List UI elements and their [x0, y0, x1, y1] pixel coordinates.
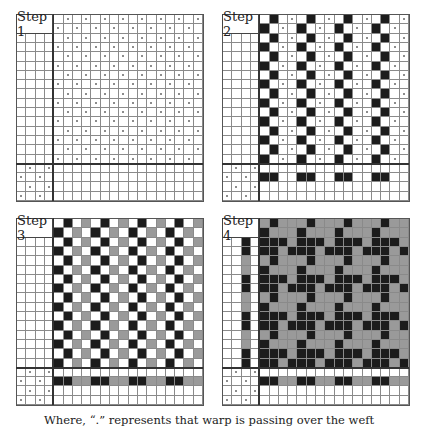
grid-cell — [129, 164, 138, 173]
grid-cell — [166, 182, 175, 191]
grid-cell — [242, 293, 251, 302]
grid-cell — [223, 164, 232, 173]
grid-cell — [390, 303, 399, 312]
grid-cell — [119, 145, 128, 154]
grid-cell — [279, 182, 288, 191]
grid-cell — [344, 62, 353, 71]
grid-cell — [297, 108, 306, 117]
step-1-panel: Step 1 — [16, 14, 203, 201]
grid-cell — [400, 377, 409, 386]
grid-cell — [166, 293, 175, 302]
grid-cell — [307, 192, 316, 201]
grid-cell — [325, 62, 334, 71]
grid-cell — [194, 192, 203, 201]
grid-cell — [353, 247, 362, 256]
grid-cell — [316, 43, 325, 52]
grid-cell — [73, 396, 82, 405]
grid-cell — [363, 117, 372, 126]
grid-cell — [194, 266, 203, 275]
grid-cell — [175, 89, 184, 98]
grid-cell — [297, 145, 306, 154]
grid-cell — [73, 219, 82, 228]
grid-cell — [344, 219, 353, 228]
grid-cell — [26, 321, 35, 330]
grid-cell — [335, 247, 344, 256]
grid-cell — [73, 192, 82, 201]
grid-cell — [64, 80, 73, 89]
grid-cell — [232, 303, 241, 312]
grid-cell — [166, 266, 175, 275]
grid-cell — [307, 238, 316, 247]
grid-cell — [138, 275, 147, 284]
grid-cell — [91, 284, 100, 293]
grid-cell — [82, 24, 91, 33]
grid-cell — [184, 15, 193, 24]
grid-cell — [82, 340, 91, 349]
grid-cell — [138, 238, 147, 247]
grid-cell — [232, 312, 241, 321]
grid-cell — [73, 312, 82, 321]
grid-cell — [82, 89, 91, 98]
grid-cell — [194, 284, 203, 293]
grid-cell — [232, 62, 241, 71]
grid-cell — [119, 321, 128, 330]
grid-cell — [129, 368, 138, 377]
grid-cell — [325, 164, 334, 173]
grid-cell — [344, 303, 353, 312]
grid-cell — [82, 368, 91, 377]
grid-cell — [82, 43, 91, 52]
grid-cell — [335, 173, 344, 182]
grid-cell — [381, 247, 390, 256]
grid-cell — [279, 164, 288, 173]
grid-cell — [363, 386, 372, 395]
grid-cell — [73, 24, 82, 33]
grid-cell — [381, 117, 390, 126]
grid-cell — [270, 164, 279, 173]
grid-cell — [91, 386, 100, 395]
grid-cell — [110, 238, 119, 247]
grid-cell — [260, 15, 269, 24]
grid-cell — [325, 89, 334, 98]
grid-cell — [82, 321, 91, 330]
grid-cell — [175, 321, 184, 330]
grid-cell — [279, 331, 288, 340]
grid-cell — [138, 136, 147, 145]
grid-cell — [316, 182, 325, 191]
grid-cell — [223, 284, 232, 293]
grid-cell — [344, 43, 353, 52]
grid-cell — [82, 312, 91, 321]
grid-cell — [279, 256, 288, 265]
grid-cell — [91, 136, 100, 145]
grid-cell — [82, 228, 91, 237]
grid-cell — [54, 52, 63, 61]
grid-cell — [110, 52, 119, 61]
grid-cell — [363, 284, 372, 293]
grid-cell — [36, 145, 45, 154]
grid-cell — [194, 127, 203, 136]
grid-cell — [157, 386, 166, 395]
grid-cell — [390, 275, 399, 284]
grid-cell — [260, 321, 269, 330]
grid-cell — [110, 34, 119, 43]
grid-cell — [307, 52, 316, 61]
grid-cell — [157, 164, 166, 173]
grid-cell — [353, 127, 362, 136]
grid-cell — [381, 145, 390, 154]
grid-cell — [335, 312, 344, 321]
grid-cell — [400, 108, 409, 117]
grid-cell — [400, 62, 409, 71]
grid-cell — [194, 80, 203, 89]
grid-cell — [270, 396, 279, 405]
grid-cell — [175, 312, 184, 321]
grid-cell — [270, 349, 279, 358]
grid-cell — [110, 15, 119, 24]
grid-cell — [297, 182, 306, 191]
grid-cell — [91, 349, 100, 358]
grid-cell — [242, 71, 251, 80]
grid-cell — [36, 377, 45, 386]
grid-cell — [223, 377, 232, 386]
grid-cell — [288, 256, 297, 265]
grid-cell — [400, 89, 409, 98]
section-divider — [258, 218, 260, 405]
grid-cell — [147, 303, 156, 312]
